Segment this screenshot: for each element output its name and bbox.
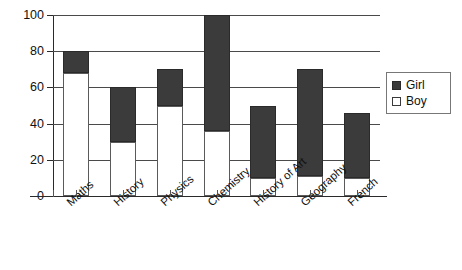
x-axis-tick xyxy=(310,190,311,197)
x-axis-tick xyxy=(217,190,218,197)
bar-segment-boy xyxy=(63,73,89,196)
x-axis-tick xyxy=(357,190,358,197)
y-axis-tick-label: 80 xyxy=(4,45,44,58)
x-axis-tick xyxy=(53,190,54,197)
x-axis-tick xyxy=(123,190,124,197)
y-axis-tick-label: 20 xyxy=(4,154,44,167)
legend-item-boy: Boy xyxy=(392,95,445,107)
y-axis-tick-label: 100 xyxy=(4,9,44,22)
chart-legend: Girl Boy xyxy=(386,72,451,114)
bar-segment-girl xyxy=(250,106,276,178)
legend-item-girl: Girl xyxy=(392,79,445,91)
bar-chart: 020406080100 MathsHistoryPhysicsChemistr… xyxy=(0,0,462,270)
empty-white-square-icon xyxy=(392,97,401,106)
x-axis-tick xyxy=(170,190,171,197)
x-axis-tick xyxy=(76,190,77,197)
bar-segment-girl xyxy=(63,51,89,73)
y-axis-tick xyxy=(47,51,53,52)
bar-segment-girl xyxy=(110,87,136,141)
y-axis-tick-label: 60 xyxy=(4,81,44,94)
x-axis-tick xyxy=(263,190,264,197)
y-axis-tick xyxy=(47,160,53,161)
bar-group xyxy=(157,69,183,196)
y-axis-tick xyxy=(47,15,53,16)
y-axis-tick-label: 40 xyxy=(4,118,44,131)
legend-label-boy: Boy xyxy=(406,95,427,107)
y-axis-tick xyxy=(47,124,53,125)
filled-dark-square-icon xyxy=(392,81,401,90)
legend-label-girl: Girl xyxy=(406,79,425,91)
y-axis-labels: 020406080100 xyxy=(0,0,44,270)
bar-segment-girl xyxy=(204,15,230,131)
bar-segment-girl xyxy=(157,69,183,105)
y-axis-tick xyxy=(47,87,53,88)
bar-group xyxy=(297,69,323,196)
bar-group xyxy=(204,15,230,196)
bar-group xyxy=(63,51,89,196)
